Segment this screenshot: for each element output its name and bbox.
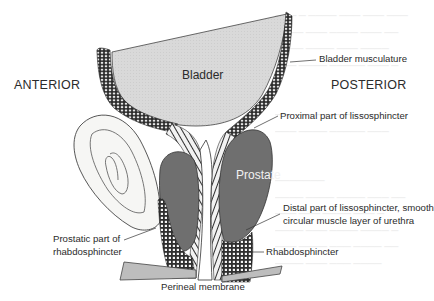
label-perineal-membrane: Perineal membrane [161, 281, 245, 293]
label-proximal-lissosphincter: Proximal part of lissosphincter [280, 110, 408, 122]
leader-bladder-musculature [290, 60, 316, 62]
label-distal-lissosphincter-line2: circular muscle layer of urethra [283, 215, 414, 227]
label-distal-lissosphincter-line1: Distal part of lissosphincter, smooth [283, 202, 434, 214]
label-anterior: ANTERIOR [14, 78, 80, 92]
label-rhabdosphincter: Rhabdosphincter [266, 246, 339, 258]
label-bladder-musculature: Bladder musculature [319, 53, 407, 65]
label-posterior: POSTERIOR [331, 78, 406, 92]
label-bladder: Bladder [182, 68, 223, 82]
label-prostatic-rhabdo-line2: rhabdosphincter [53, 246, 122, 258]
label-prostatic-rhabdo-line1: Prostatic part of [53, 233, 120, 245]
leader-proximal-lissosphincter [254, 116, 278, 128]
label-prostate: Prostate [236, 168, 281, 182]
